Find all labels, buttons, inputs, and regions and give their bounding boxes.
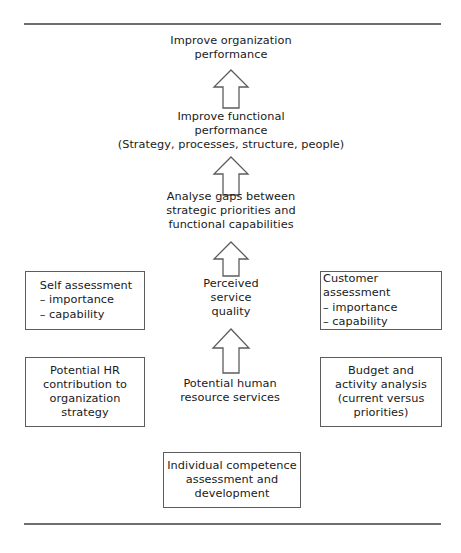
box-potential-hr-contribution-text: Potential HR contribution to organizatio… — [43, 364, 127, 421]
box-self-assessment-text: Self assessment – importance – capabilit… — [38, 279, 133, 322]
box-customer-assessment: Customer assessment – importance – capab… — [320, 271, 442, 330]
node-perceived-service-quality: Perceived service quality — [181, 277, 281, 320]
box-budget-activity-analysis-text: Budget and activity analysis (current ve… — [335, 364, 427, 421]
flow-diagram-figure: Improve organization performance Improve… — [0, 0, 461, 553]
box-potential-hr-contribution: Potential HR contribution to organizatio… — [25, 357, 145, 427]
top-horizontal-rule — [24, 23, 441, 25]
node-analyse-gaps: Analyse gaps between strategic prioritie… — [131, 190, 331, 233]
box-individual-competence: Individual competence assessment and dev… — [163, 452, 301, 508]
node-potential-human-resource-services: Potential human resource services — [165, 377, 295, 405]
node-improve-organization-performance: Improve organization performance — [131, 34, 331, 62]
box-self-assessment: Self assessment – importance – capabilit… — [25, 271, 145, 330]
box-customer-assessment-text: Customer assessment – importance – capab… — [321, 272, 441, 329]
arrow-services-to-quality — [209, 327, 253, 375]
box-individual-competence-text: Individual competence assessment and dev… — [167, 459, 297, 502]
box-budget-activity-analysis: Budget and activity analysis (current ve… — [320, 357, 442, 427]
arrow-functional-to-organization — [211, 68, 251, 110]
arrow-quality-to-gaps — [211, 240, 251, 278]
node-improve-functional-performance: Improve functional performance (Strategy… — [81, 110, 381, 153]
bottom-horizontal-rule — [24, 523, 441, 525]
